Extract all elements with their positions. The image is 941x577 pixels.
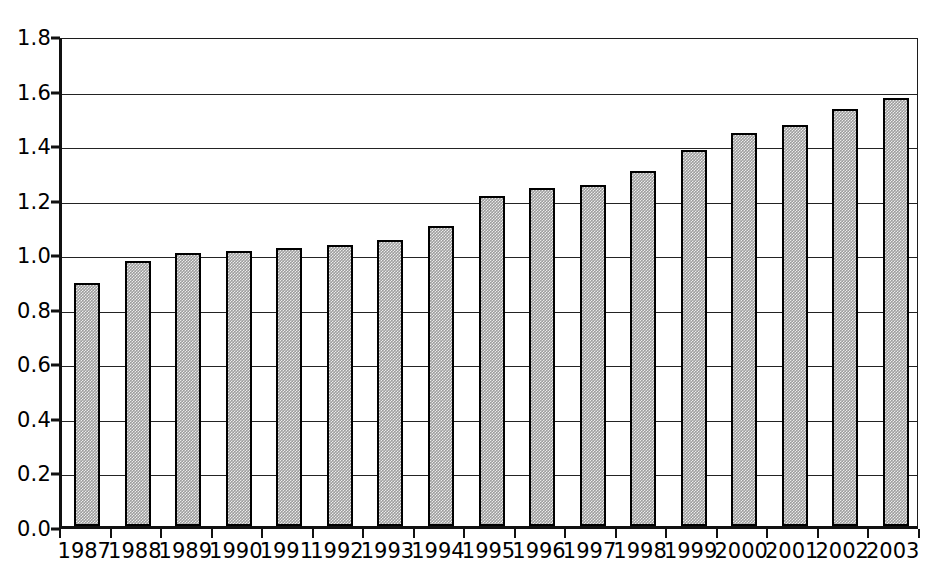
x-axis-tick-label: 1990 [209, 541, 262, 562]
x-axis-tick-label: 1991 [260, 541, 313, 562]
plot-area [59, 38, 918, 529]
bar [327, 245, 353, 526]
bar [175, 253, 201, 526]
x-axis-tick-label: 2000 [714, 541, 767, 562]
y-axis-tick-label: 1.0 [17, 246, 51, 267]
x-axis-tick-mark [716, 529, 718, 538]
x-axis-tick-mark [160, 529, 162, 538]
y-axis-tick-label: 1.4 [17, 137, 51, 158]
y-axis-tick-label: 0.2 [17, 464, 51, 485]
x-axis-tick-mark [59, 529, 61, 538]
x-axis-tick-mark [110, 529, 112, 538]
bar [276, 248, 302, 526]
bar [883, 98, 909, 526]
x-axis-tick-mark [463, 529, 465, 538]
x-axis-tick-mark [312, 529, 314, 538]
bar [832, 109, 858, 526]
bar [580, 185, 606, 526]
x-axis-tick-label: 1988 [108, 541, 161, 562]
bar [125, 261, 151, 526]
bar [74, 283, 100, 526]
y-axis-tick-label: 1.8 [17, 28, 51, 49]
bar [226, 251, 252, 527]
x-axis-tick-label: 1992 [310, 541, 363, 562]
x-axis-tick-mark [564, 529, 566, 538]
y-axis-tick-label: 0.4 [17, 409, 51, 430]
y-axis: 0.00.20.40.60.81.01.21.41.61.8 [0, 0, 51, 577]
x-axis-tick-mark [817, 529, 819, 538]
y-axis-tick-label: 0.6 [17, 355, 51, 376]
bar [479, 196, 505, 526]
bar [630, 171, 656, 526]
y-axis-tick-label: 1.6 [17, 82, 51, 103]
bar [731, 133, 757, 526]
x-axis-tick-mark [615, 529, 617, 538]
x-axis-tick-mark [362, 529, 364, 538]
x-axis-tick-label: 1995 [462, 541, 515, 562]
bar-chart: 0.00.20.40.60.81.01.21.41.61.8 198719881… [0, 0, 941, 577]
x-axis-tick-mark [766, 529, 768, 538]
bar [428, 226, 454, 526]
x-axis-ticks [59, 529, 918, 539]
gridline [62, 94, 917, 95]
x-axis-tick-label: 1987 [58, 541, 111, 562]
y-axis-tick-label: 0.0 [17, 519, 51, 540]
x-axis-tick-label: 2001 [765, 541, 818, 562]
y-axis-tick-label: 1.2 [17, 191, 51, 212]
x-axis-tick-label: 1998 [613, 541, 666, 562]
x-axis-tick-mark [211, 529, 213, 538]
x-axis: 1987198819891990199119921993199419951996… [59, 541, 918, 571]
x-axis-tick-label: 1989 [159, 541, 212, 562]
bar [529, 188, 555, 526]
bar [782, 125, 808, 526]
x-axis-tick-mark [867, 529, 869, 538]
x-axis-tick-mark [665, 529, 667, 538]
bar [681, 150, 707, 526]
x-axis-tick-label: 1999 [664, 541, 717, 562]
x-axis-tick-label: 1997 [563, 541, 616, 562]
x-axis-tick-label: 2003 [866, 541, 919, 562]
x-axis-tick-label: 1993 [361, 541, 414, 562]
x-axis-tick-label: 1994 [411, 541, 464, 562]
x-axis-tick-label: 2002 [815, 541, 868, 562]
x-axis-tick-mark [514, 529, 516, 538]
bar [377, 240, 403, 526]
x-axis-tick-label: 1996 [512, 541, 565, 562]
y-axis-tick-label: 0.8 [17, 300, 51, 321]
x-axis-tick-mark [261, 529, 263, 538]
x-axis-tick-mark [413, 529, 415, 538]
x-axis-tick-mark [918, 529, 920, 538]
